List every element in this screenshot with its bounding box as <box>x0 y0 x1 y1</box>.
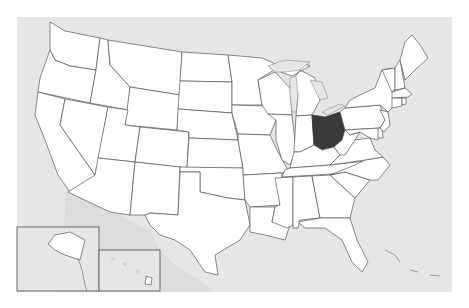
hawaii-island-maui <box>137 270 140 273</box>
state-new-mexico[interactable] <box>130 162 180 215</box>
hawaii-island-oahu <box>124 263 126 265</box>
state-rhode-island[interactable] <box>402 98 406 105</box>
state-connecticut[interactable] <box>392 98 402 108</box>
state-north-dakota[interactable] <box>180 52 232 82</box>
hawaii-island-kauai <box>112 258 114 260</box>
state-wyoming[interactable] <box>125 87 180 130</box>
lake-michigan <box>290 76 298 112</box>
state-colorado[interactable] <box>135 127 189 168</box>
state-pennsylvania[interactable] <box>340 105 385 130</box>
state-hawaii[interactable] <box>145 276 152 285</box>
state-south-dakota[interactable] <box>178 81 232 113</box>
us-map <box>0 0 469 308</box>
state-kansas[interactable] <box>187 138 243 168</box>
